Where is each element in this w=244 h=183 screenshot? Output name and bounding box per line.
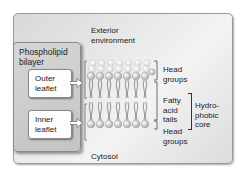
outer-leaflet-line2: leaflet	[29, 84, 71, 94]
phospholipid-bilayer-title: Phospholipid bilayer	[19, 47, 68, 67]
hydrophobic-core-bracket	[188, 93, 192, 130]
head-groups-top-line2: groups	[163, 75, 187, 85]
head-groups-top-label: Head groups	[163, 65, 187, 84]
outer-leaflet-arrow-icon	[70, 78, 83, 88]
head-groups-bottom-line2: groups	[163, 137, 187, 147]
head-groups-bottom-line1: Head	[163, 127, 187, 137]
inner-leaflet-line1: Inner	[29, 111, 71, 125]
exterior-line2: environment	[91, 36, 135, 46]
fatty-acid-line3: tails	[163, 115, 181, 125]
cytosol-label: Cytosol	[91, 152, 118, 162]
fatty-acid-line2: acid	[163, 106, 181, 116]
inner-leaflet-box: Inner leaflet	[28, 110, 72, 139]
inner-leaflet-line2: leaflet	[29, 125, 71, 135]
fatty-acid-line1: Fatty	[163, 96, 181, 106]
phospholipid-bilayer-panel: Phospholipid bilayer Outer leaflet Inner…	[13, 42, 81, 152]
hydrophobic-line2: phobic	[195, 111, 219, 121]
exterior-line1: Exterior	[91, 26, 135, 36]
head-groups-bottom-label: Head groups	[163, 127, 187, 146]
inner-leaflet-arrow-icon	[70, 118, 83, 128]
title-line2: bilayer	[19, 57, 68, 67]
fatty-acid-tails-label: Fatty acid tails	[163, 96, 181, 125]
head-groups-top-line1: Head	[163, 65, 187, 75]
hydrophobic-line3: core	[195, 120, 219, 130]
hydrophobic-core-label: Hydro- phobic core	[195, 101, 219, 130]
hydrophobic-line1: Hydro-	[195, 101, 219, 111]
phospholipid-bilayer-illustration	[84, 58, 158, 142]
title-line1: Phospholipid	[19, 47, 68, 57]
exterior-environment-label: Exterior environment	[91, 26, 135, 46]
outer-leaflet-box: Outer leaflet	[28, 69, 72, 98]
outer-leaflet-line1: Outer	[29, 70, 71, 84]
